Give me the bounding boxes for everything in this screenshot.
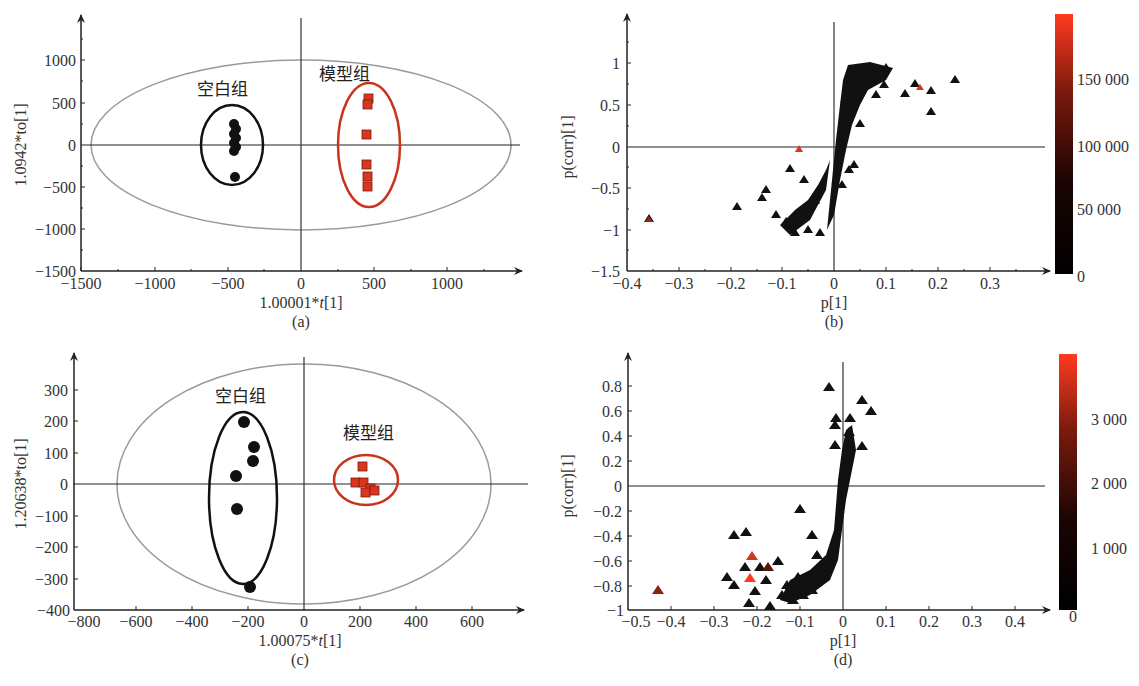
colorbar-tick-label: 3 000	[1091, 411, 1127, 428]
y-tick-label: −0.2	[593, 503, 622, 520]
x-axis-label: 1.00075*t[1]	[258, 632, 341, 649]
x-tick-label: 400	[404, 613, 428, 630]
x-tick-label: 500	[362, 275, 386, 292]
y-tick-label: 1000	[44, 52, 76, 69]
x-tick-label: −500	[211, 275, 244, 292]
y-tick-label: 0.2	[602, 453, 622, 470]
x-tick-label: 0.2	[919, 613, 939, 630]
panel-c: 300 200 100 0 −100 −200 −300 −400 −800 −…	[12, 353, 528, 669]
y-tick-label: 300	[44, 382, 68, 399]
y-tick-label: 0	[68, 137, 76, 154]
panel-caption: (b)	[825, 313, 844, 331]
colorbar-tick-label: 0	[1069, 608, 1077, 625]
y-tick-label: 100	[44, 445, 68, 462]
y-tick-label: 0.6	[602, 403, 622, 420]
x-tick-label: −0.4	[656, 613, 685, 630]
x-tick-label: 0.1	[876, 613, 896, 630]
panel-caption: (a)	[292, 313, 310, 331]
colorbar-tick-label: 100 000	[1077, 138, 1129, 155]
x-tick-label: −0.2	[716, 275, 745, 292]
x-tick-label: 0.2	[928, 275, 948, 292]
x-axis-label: p[1]	[821, 294, 848, 312]
y-tick-label: 0.4	[602, 428, 622, 445]
x-tick-label: 0.1	[876, 275, 896, 292]
y-tick-label: −1000	[35, 221, 76, 238]
y-tick-label: 0	[614, 478, 622, 495]
y-tick-label: 0	[612, 139, 620, 156]
y-tick-label: −1	[603, 222, 620, 239]
x-tick-label: −0.4	[612, 275, 641, 292]
x-tick-label: 600	[460, 613, 484, 630]
colorbar-tick-label: 150 000	[1077, 71, 1129, 88]
blank-group-label: 空白组	[197, 79, 248, 99]
loading-points	[721, 382, 877, 610]
colorbar	[1059, 354, 1077, 610]
panel-caption: (c)	[291, 651, 309, 669]
y-tick-label: 1	[612, 55, 620, 72]
y-tick-label: 0.5	[600, 97, 620, 114]
x-tick-label: 0.4	[1005, 613, 1025, 630]
x-tick-label: 0.3	[962, 613, 982, 630]
colorbar-tick-label: 1 000	[1091, 540, 1127, 557]
y-tick-label: −0.8	[593, 578, 622, 595]
x-tick-label: 1000	[431, 275, 463, 292]
y-tick-label: −500	[43, 179, 76, 196]
x-tick-label: −0.2	[742, 613, 771, 630]
panel-caption: (d)	[834, 651, 853, 669]
y-tick-label: −100	[35, 508, 68, 525]
blank-group-points	[229, 119, 241, 182]
blank-group-points	[230, 416, 260, 593]
figure: 1000 500 0 −500 −1000 −1500 −1500 −1000 …	[0, 0, 1139, 686]
model-group-label: 模型组	[319, 64, 370, 84]
y-tick-label: 200	[44, 413, 68, 430]
x-tick-label: 200	[348, 613, 372, 630]
colorbar-tick-label: 0	[1077, 268, 1085, 285]
y-axis-label: 1.20638*to[1]	[12, 438, 29, 529]
y-axis-label: p(corr)[1]	[559, 454, 577, 517]
y-axis-label: p(corr)[1]	[559, 115, 577, 178]
panel-d: 0.8 0.6 0.4 0.2 0 −0.2 −0.4 −0.6 −0.8 −1…	[559, 353, 1127, 669]
loading-points	[644, 62, 960, 236]
y-tick-label: 0	[60, 476, 68, 493]
y-tick-label: 0.8	[602, 378, 622, 395]
x-tick-label: −800	[67, 613, 100, 630]
blank-group-label: 空白组	[215, 386, 266, 406]
y-axis-label: 1.0942*to[1]	[12, 103, 29, 186]
x-tick-label: 0	[839, 613, 847, 630]
y-tick-label: −300	[35, 571, 68, 588]
x-tick-label: −400	[175, 613, 208, 630]
x-tick-label: −0.3	[699, 613, 728, 630]
y-tick-label: −0.6	[593, 553, 622, 570]
x-tick-label: −1000	[134, 275, 175, 292]
model-group-points	[351, 462, 379, 497]
model-group-label: 模型组	[343, 423, 394, 443]
high-intensity-points	[645, 84, 924, 222]
blank-group-ellipse	[209, 412, 277, 584]
x-tick-label: −600	[119, 613, 152, 630]
x-axis-label: p[1]	[830, 632, 857, 650]
x-tick-label: −0.1	[785, 613, 814, 630]
model-group-points	[362, 94, 373, 191]
x-axis-label: 1.00001*t[1]	[259, 294, 342, 311]
x-tick-label: −0.1	[767, 275, 796, 292]
panel-b: 1 0.5 0 −0.5 −1 −1.5 −0.4 −0.3 −0.2 −0.1…	[559, 14, 1129, 331]
y-tick-label: −200	[35, 539, 68, 556]
y-tick-label: −0.4	[593, 528, 622, 545]
x-tick-label: −0.5	[621, 613, 650, 630]
colorbar	[1055, 14, 1073, 274]
x-tick-label: 0	[300, 613, 308, 630]
x-tick-label: −1500	[60, 275, 101, 292]
x-tick-label: −200	[231, 613, 264, 630]
x-tick-label: 0	[830, 275, 838, 292]
y-tick-label: 500	[52, 95, 76, 112]
colorbar-tick-label: 50 000	[1077, 201, 1121, 218]
x-tick-label: 0.3	[980, 275, 1000, 292]
panel-a: 1000 500 0 −500 −1000 −1500 −1500 −1000 …	[12, 15, 522, 331]
x-tick-label: −0.3	[664, 275, 693, 292]
x-tick-label: 0	[297, 275, 305, 292]
y-tick-label: −0.5	[591, 180, 620, 197]
y-tick-label: −400	[37, 602, 70, 619]
colorbar-tick-label: 2 000	[1091, 475, 1127, 492]
